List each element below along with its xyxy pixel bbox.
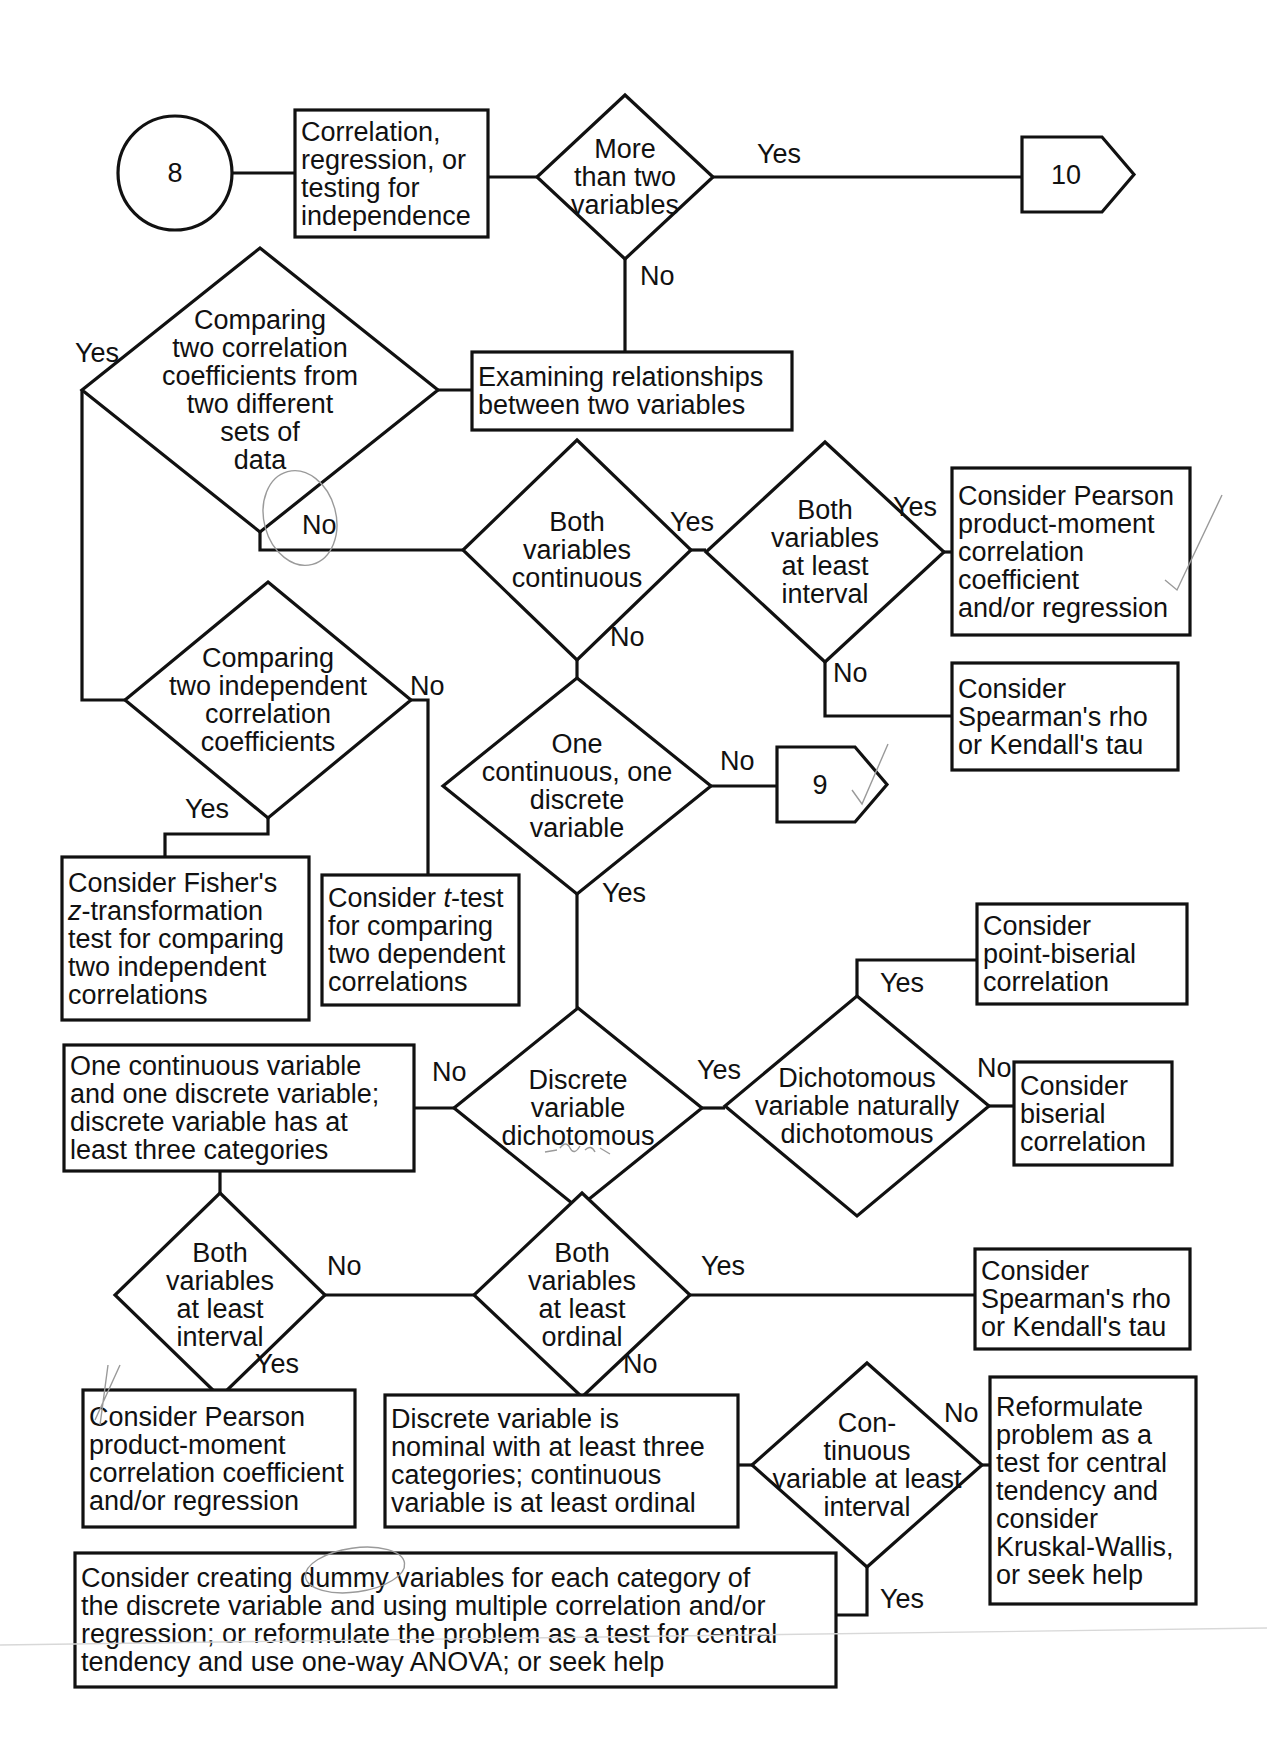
box-examining-relationships: Examining relationshipsbetween two varia…	[472, 352, 792, 430]
label-no-more-than-two: No	[640, 261, 675, 291]
node-text-line: correlation	[983, 967, 1109, 997]
label-yes-ordinal: Yes	[701, 1251, 745, 1281]
node-text-line: Correlation,	[301, 117, 441, 147]
label-no-compare-sets: No	[302, 510, 337, 540]
node-text-line: regression; or reformulate the problem a…	[81, 1619, 777, 1649]
node-text-line: or seek help	[996, 1560, 1143, 1590]
node-text-line: correlation	[205, 699, 331, 729]
box-consider-spearman-bottom: ConsiderSpearman's rhoor Kendall's tau	[975, 1249, 1190, 1349]
node-text-line: Consider	[983, 911, 1091, 941]
node-text-line: Dichotomous	[778, 1063, 936, 1093]
label-yes-more-than-two: Yes	[757, 139, 801, 169]
node-text-line: Consider Pearson	[89, 1402, 305, 1432]
node-text-line: dichotomous	[501, 1121, 654, 1151]
node-text-line: at least	[538, 1294, 626, 1324]
label-no-naturally: No	[977, 1053, 1012, 1083]
connector-line	[836, 1567, 867, 1615]
node-text-line: testing for	[301, 173, 420, 203]
node-text-line: variable is at least ordinal	[391, 1488, 696, 1518]
label-no-compare-independent: No	[410, 671, 445, 701]
node-text-line: correlations	[328, 967, 468, 997]
node-text-line: Comparing	[202, 643, 334, 673]
node-text-line: two dependent	[328, 939, 506, 969]
node-text-line: and/or regression	[89, 1486, 299, 1516]
node-text-line: for comparing	[328, 911, 493, 941]
connector-line	[411, 700, 428, 875]
node-text-line: regression, or	[301, 145, 466, 175]
label-no-cont-interval: No	[944, 1398, 979, 1428]
label-yes-cont-interval: Yes	[880, 1584, 924, 1614]
node-text-line: test for central	[996, 1448, 1167, 1478]
node-text-line: correlations	[68, 980, 208, 1010]
label-yes-both-continuous: Yes	[670, 507, 714, 537]
node-text-line: More	[594, 134, 656, 164]
label-no-interval-top: No	[833, 658, 868, 688]
node-text-line: correlation	[958, 537, 1084, 567]
node-text-line: between two variables	[478, 390, 745, 420]
node-text-line: categories; continuous	[391, 1460, 661, 1490]
node-text-line: interval	[176, 1322, 263, 1352]
node-text-line: variables	[771, 523, 879, 553]
label-yes-naturally: Yes	[880, 968, 924, 998]
label-no-one-cont-one-disc: No	[720, 746, 755, 776]
node-text-line: discrete variable has at	[70, 1107, 348, 1137]
box-consider-dummy-variables: Consider creating dummy variables for ea…	[75, 1553, 836, 1687]
node-text-line: two correlation	[172, 333, 348, 363]
node-text-line: interval	[781, 579, 868, 609]
node-text-line: dichotomous	[780, 1119, 933, 1149]
node-text-line: Comparing	[194, 305, 326, 335]
node-text-line: coefficients	[201, 727, 336, 757]
label-no-interval-bottom: No	[327, 1251, 362, 1281]
node-text-line: at least	[176, 1294, 264, 1324]
box-correlation-regression: Correlation,regression, ortesting forind…	[295, 110, 488, 237]
node-text-line: product-moment	[958, 509, 1155, 539]
node-text-line: tinuous	[823, 1436, 910, 1466]
node-text-line: z-transformation	[67, 896, 263, 926]
node-text-line: coefficient	[958, 565, 1080, 595]
label-no-both-continuous: No	[610, 622, 645, 652]
node-text-line: or Kendall's tau	[958, 730, 1143, 760]
node-text-line: problem as a	[996, 1420, 1153, 1450]
offpage-connector-10: 10	[1022, 137, 1134, 212]
node-text-line: discrete	[530, 785, 625, 815]
box-consider-point-biserial: Considerpoint-biserialcorrelation	[977, 904, 1187, 1004]
node-text-line: two independent	[169, 671, 368, 701]
node-text-line: ordinal	[541, 1322, 622, 1352]
label-yes-compare-sets: Yes	[75, 338, 119, 368]
node-text-line: sets of	[220, 417, 300, 447]
node-text-line: continuous, one	[482, 757, 673, 787]
box-consider-pearson-bottom: Consider Pearsonproduct-momentcorrelatio…	[83, 1390, 355, 1527]
node-text-line: variables	[166, 1266, 274, 1296]
node-text-line: coefficients from	[162, 361, 358, 391]
decision-continuous-variable-at-least-interval: Con-tinuousvariable at leastinterval	[752, 1363, 982, 1567]
flowchart-canvas: 8Correlation,regression, ortesting forin…	[0, 0, 1267, 1760]
node-text-line: Both	[549, 507, 605, 537]
node-text-line: correlation coefficient	[89, 1458, 344, 1488]
node-text-line: variable	[531, 1093, 626, 1123]
decision-both-variables-at-least-interval-top: Bothvariablesat leastinterval	[706, 442, 944, 662]
node-text-line: interval	[823, 1492, 910, 1522]
node-text-line: variable	[530, 813, 625, 843]
decision-both-variables-at-least-ordinal: Bothvariablesat leastordinal	[474, 1193, 690, 1397]
node-text-line: tendency and use one-way ANOVA; or seek …	[81, 1647, 664, 1677]
node-text-line: Kruskal-Wallis,	[996, 1532, 1174, 1562]
node-text-line: nominal with at least three	[391, 1432, 705, 1462]
box-consider-fisher-z: Consider Fisher'sz-transformationtest fo…	[62, 857, 309, 1020]
node-text-line: One continuous variable	[70, 1051, 361, 1081]
node-text-line: Consider	[958, 674, 1066, 704]
node-text-line: variables	[571, 190, 679, 220]
node-text-line: Con-	[838, 1408, 897, 1438]
node-text-line: or Kendall's tau	[981, 1312, 1166, 1342]
node-text-line: Consider creating dummy variables for ea…	[81, 1563, 751, 1593]
node-text-line: tendency and	[996, 1476, 1158, 1506]
box-consider-biserial: Considerbiserialcorrelation	[1014, 1062, 1172, 1165]
node-text-line: Consider Pearson	[958, 481, 1174, 511]
node-text-line: independence	[301, 201, 471, 231]
node-text-line: and/or regression	[958, 593, 1168, 623]
node-text-line: data	[234, 445, 288, 475]
node-text-line: Discrete variable is	[391, 1404, 619, 1434]
label-no-ordinal: No	[623, 1349, 658, 1379]
label-yes-one-cont-one-disc: Yes	[602, 878, 646, 908]
node-text-line: Both	[797, 495, 853, 525]
decision-comparing-two-independent-coefficients: Comparingtwo independentcorrelationcoeff…	[125, 582, 411, 818]
